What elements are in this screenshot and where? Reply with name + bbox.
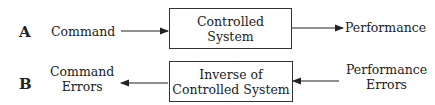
performance-errors-text: Performance Errors (346, 62, 427, 92)
command-errors-line2: Errors (50, 79, 114, 94)
performance-text: Performance (345, 20, 426, 35)
inverse-system-box: Inverse of Controlled System (169, 61, 293, 102)
command-text: Command (51, 24, 115, 39)
command-errors-text: Command Errors (50, 64, 114, 94)
performance-errors-line2: Errors (346, 77, 427, 92)
controlled-system-box: Controlled System (169, 8, 292, 49)
performance-errors-line1: Performance (346, 62, 427, 77)
row-a-label: A (19, 23, 31, 41)
command-errors-line1: Command (50, 64, 114, 79)
box-a-line2: System (207, 29, 253, 44)
row-b-label: B (19, 75, 32, 93)
box-a-line1: Controlled (197, 14, 264, 29)
box-b-line2: Controlled System (172, 82, 289, 97)
box-b-line1: Inverse of (199, 67, 262, 82)
